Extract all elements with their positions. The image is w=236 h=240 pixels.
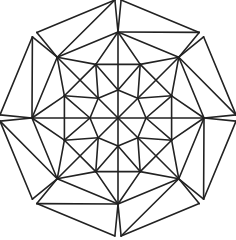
pattern-line (98, 118, 118, 138)
pattern-line (179, 179, 204, 199)
pattern-line (118, 64, 140, 90)
pattern-line (138, 96, 172, 98)
pattern-lines (0, 0, 236, 236)
pattern-line (138, 118, 146, 138)
pattern-line (98, 90, 118, 98)
pattern-line (96, 64, 118, 90)
pattern-line (204, 118, 236, 121)
pattern-line (146, 118, 172, 140)
pattern-line (90, 118, 98, 138)
pattern-line (0, 121, 32, 199)
pattern-line (179, 32, 199, 57)
pattern-line (138, 138, 140, 172)
pattern-line (118, 118, 138, 138)
pattern-line (204, 115, 236, 118)
pattern-line (32, 179, 57, 199)
pattern-line (37, 179, 57, 204)
pattern-line (121, 204, 199, 236)
pattern-line (138, 98, 146, 118)
pattern-line (138, 138, 172, 140)
pattern-line (64, 138, 98, 140)
pattern-line (37, 32, 57, 57)
pattern-line (90, 98, 98, 118)
pattern-line (204, 37, 236, 115)
pattern-line (96, 64, 98, 98)
pattern-line (32, 37, 57, 57)
pattern-line (179, 179, 199, 204)
pattern-line (96, 146, 118, 172)
pattern-line (118, 146, 140, 172)
pattern-line (64, 96, 90, 118)
pattern-line (0, 118, 32, 121)
pattern-line (0, 115, 32, 118)
pattern-line (118, 138, 138, 146)
star-pattern-diagram (0, 0, 236, 240)
pattern-line (204, 121, 236, 199)
pattern-line (118, 98, 138, 118)
pattern-line (146, 96, 172, 118)
pattern-line (96, 138, 98, 172)
pattern-line (121, 0, 199, 32)
pattern-line (37, 204, 115, 236)
pattern-line (0, 37, 32, 115)
pattern-line (115, 204, 118, 236)
pattern-line (118, 90, 138, 98)
pattern-line (118, 0, 121, 32)
pattern-line (37, 0, 115, 32)
pattern-line (98, 138, 118, 146)
pattern-line (138, 64, 140, 98)
pattern-line (98, 98, 118, 118)
pattern-line (179, 37, 204, 57)
pattern-line (64, 118, 90, 140)
pattern-line (118, 204, 121, 236)
pattern-line (115, 0, 118, 32)
pattern-line (64, 96, 98, 98)
